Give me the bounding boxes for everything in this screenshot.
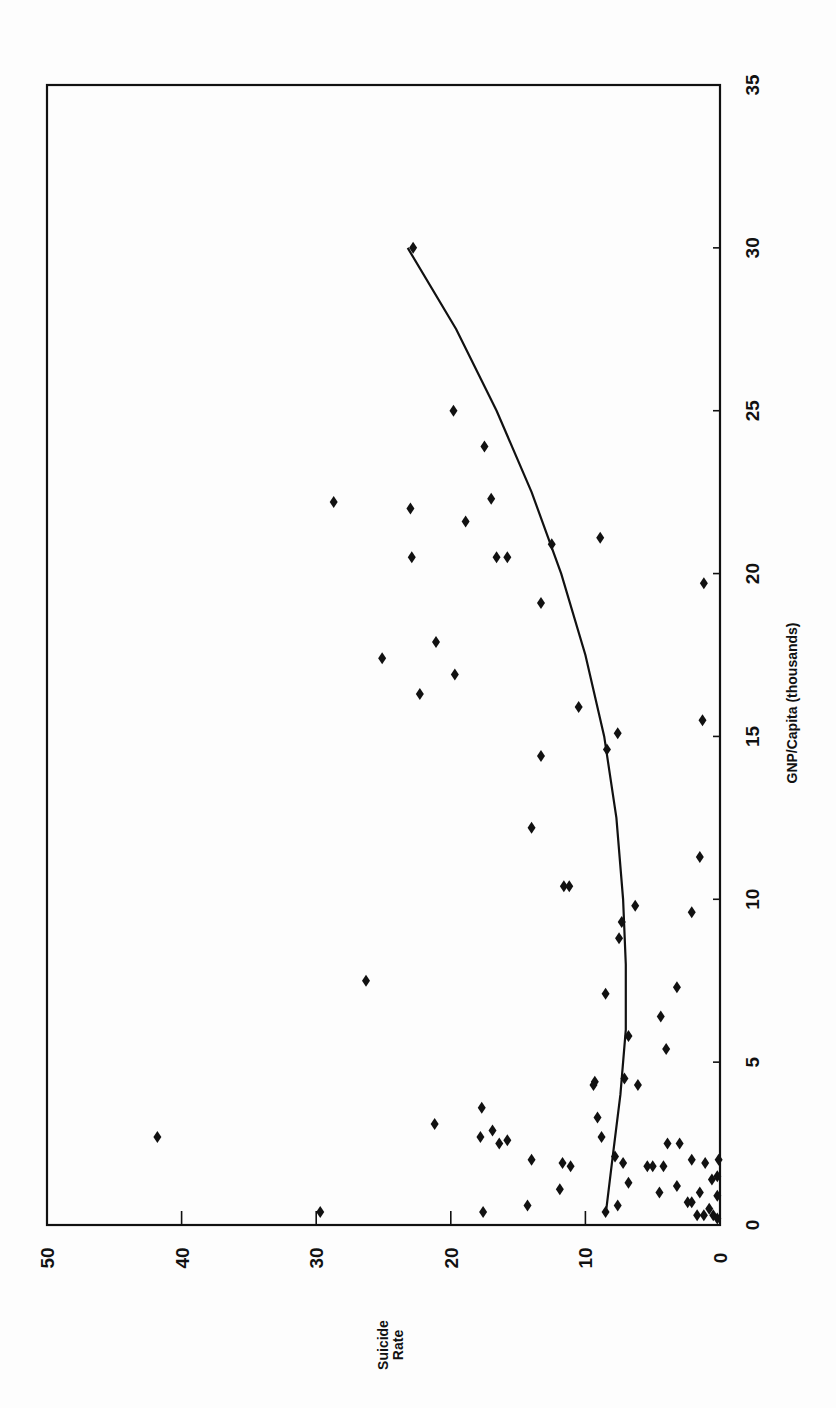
rate-tick-label: 40	[172, 1247, 193, 1268]
data-point-diamond	[673, 1180, 681, 1192]
data-point-diamond	[503, 551, 511, 563]
data-point-diamond	[537, 597, 545, 609]
gnp-tick-label: 10	[742, 889, 763, 910]
trend-line	[408, 248, 626, 1215]
data-point-diamond	[684, 1196, 692, 1208]
data-point-diamond	[699, 714, 707, 726]
data-point-diamond	[406, 502, 414, 514]
data-point-diamond	[528, 822, 536, 834]
rate-tick-label: 50	[37, 1247, 58, 1268]
data-point-diamond	[614, 727, 622, 739]
rate-tick-label: 20	[441, 1247, 462, 1268]
data-point-diamond	[489, 1125, 497, 1137]
data-point-diamond	[676, 1138, 684, 1150]
data-point-diamond	[416, 688, 424, 700]
data-point-diamond	[596, 532, 604, 544]
gnp-tick-label: 35	[742, 74, 763, 96]
data-point-diamond	[476, 1131, 484, 1143]
data-point-diamond	[556, 1183, 564, 1195]
data-point-diamond	[664, 1138, 672, 1150]
data-point-diamond	[688, 1154, 696, 1166]
data-point-diamond	[462, 515, 470, 527]
data-point-diamond	[503, 1134, 511, 1146]
data-point-diamond	[153, 1131, 161, 1143]
data-point-diamond	[624, 1177, 632, 1189]
data-point-diamond	[537, 750, 545, 762]
data-point-diamond	[634, 1079, 642, 1091]
data-point-diamond	[655, 1186, 663, 1198]
data-point-diamond	[524, 1199, 532, 1211]
data-point-diamond	[432, 636, 440, 648]
gnp-tick-label: 0	[742, 1220, 763, 1231]
data-point-diamond	[631, 900, 639, 912]
data-point-diamond	[495, 1138, 503, 1150]
rate-tick-label: 30	[306, 1247, 327, 1268]
data-point-diamond	[479, 1206, 487, 1218]
gnp-tick-label: 30	[742, 237, 763, 258]
data-point-diamond	[715, 1154, 723, 1166]
data-point-diamond	[673, 981, 681, 993]
data-point-diamond	[594, 1112, 602, 1124]
data-point-diamond	[316, 1206, 324, 1218]
data-point-diamond	[449, 405, 457, 417]
data-point-diamond	[649, 1160, 657, 1172]
rate-axis-title-line1: Suicide	[375, 1320, 391, 1370]
data-points	[153, 242, 722, 1225]
data-point-diamond	[493, 551, 501, 563]
fit-curve	[408, 248, 626, 1215]
data-point-diamond	[408, 551, 416, 563]
rate-axis-ticks: 01020304050	[37, 1211, 731, 1269]
data-point-diamond	[330, 496, 338, 508]
rate-tick-label: 0	[710, 1253, 731, 1264]
rate-tick-label: 10	[575, 1247, 596, 1268]
data-point-diamond	[431, 1118, 439, 1130]
data-point-diamond	[657, 1011, 665, 1023]
data-point-diamond	[602, 988, 610, 1000]
data-point-diamond	[700, 577, 708, 589]
data-point-diamond	[478, 1102, 486, 1114]
data-point-diamond	[362, 975, 370, 987]
data-point-diamond	[559, 1157, 567, 1169]
data-point-diamond	[575, 701, 583, 713]
scatter-chart: 05101520253035 01020304050 GNP/Capita (t…	[0, 0, 836, 1408]
data-point-diamond	[567, 1160, 575, 1172]
gnp-axis-title: GNP/Capita (thousands)	[784, 622, 800, 783]
data-point-diamond	[528, 1154, 536, 1166]
gnp-tick-label: 15	[742, 725, 763, 747]
data-point-diamond	[700, 1209, 708, 1221]
data-point-diamond	[614, 1199, 622, 1211]
data-point-diamond	[662, 1043, 670, 1055]
data-point-diamond	[615, 932, 623, 944]
rate-axis-title-line2: Rate	[390, 1330, 406, 1361]
data-point-diamond	[378, 652, 386, 664]
data-point-diamond	[659, 1160, 667, 1172]
data-point-diamond	[565, 880, 573, 892]
gnp-tick-label: 25	[742, 400, 763, 422]
data-point-diamond	[603, 743, 611, 755]
data-point-diamond	[688, 906, 696, 918]
data-point-diamond	[696, 1186, 704, 1198]
data-point-diamond	[487, 493, 495, 505]
data-point-diamond	[619, 1157, 627, 1169]
data-point-diamond	[696, 851, 704, 863]
data-point-diamond	[598, 1131, 606, 1143]
data-point-diamond	[602, 1206, 610, 1218]
gnp-tick-label: 20	[742, 563, 763, 584]
data-point-diamond	[701, 1157, 709, 1169]
gnp-tick-label: 5	[742, 1056, 763, 1067]
data-point-diamond	[451, 669, 459, 681]
data-point-diamond	[480, 441, 488, 453]
